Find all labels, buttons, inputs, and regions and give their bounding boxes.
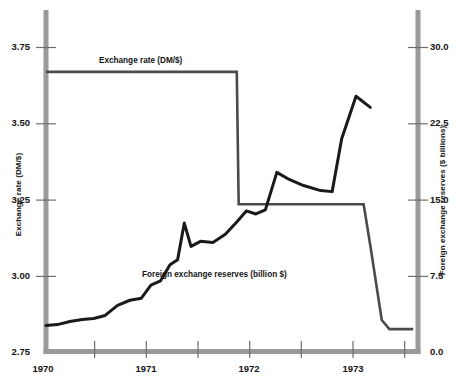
x-tick-1970: 1970 (23, 363, 63, 374)
y-axis-left-spine (44, 10, 49, 354)
reserves-series-label: Foreign exchange reserves (billion $) (142, 270, 287, 279)
exchange-rate-series-label: Exchange rate (DM/$) (99, 56, 182, 65)
foreign-reserves-line (46, 96, 370, 325)
x-tick-1971: 1971 (126, 363, 166, 374)
y-right-tick-0: 0.0 (430, 346, 462, 357)
y-axis-right-title: Foreign exchange reserves ($ billions) (438, 121, 447, 281)
y-axis-right-spine (416, 10, 421, 354)
x-tick-1972: 1972 (229, 363, 269, 374)
exchange-rate-line (46, 72, 413, 329)
y-left-tick-375: 3.75 (0, 41, 30, 52)
x-tick-1973: 1973 (333, 363, 373, 374)
x-axis-spine (44, 349, 421, 354)
chart-figure: 3.75 3.50 3.25 3.00 2.75 30.0 22.5 15.0 … (0, 0, 463, 386)
y-axis-left-title: Exchange rate (DM/$) (14, 115, 23, 275)
y-right-tick-30: 30.0 (430, 41, 462, 52)
chart-canvas (0, 0, 463, 386)
y-left-tick-275: 2.75 (0, 346, 30, 357)
